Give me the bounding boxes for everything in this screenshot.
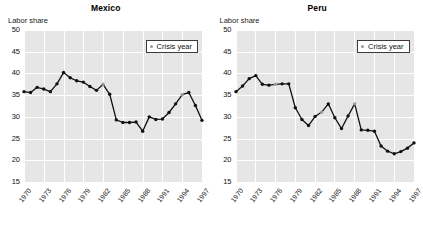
- crisis-year-marker: [320, 110, 323, 113]
- data-point-marker: [95, 89, 98, 92]
- data-point-marker: [194, 104, 197, 107]
- data-point-marker: [313, 115, 316, 118]
- data-point-marker: [161, 117, 164, 120]
- x-axis-tick-label: 1994: [176, 187, 191, 204]
- y-axis-tick-label: 45: [223, 48, 231, 56]
- y-axis-tick-label: 40: [12, 70, 20, 78]
- data-point-marker: [267, 83, 270, 86]
- data-point-marker: [68, 76, 71, 79]
- crisis-year-marker: [181, 93, 184, 96]
- data-point-marker: [412, 141, 415, 144]
- y-axis-tick-label: 45: [12, 48, 20, 56]
- data-point-marker: [62, 71, 65, 74]
- figure-container: Mexico Labor share 152025303540455019701…: [0, 0, 423, 226]
- data-point-marker: [82, 80, 85, 83]
- x-axis-tick-label: 1976: [268, 187, 283, 204]
- y-axis-tick-label: 50: [12, 26, 20, 34]
- series-line: [236, 76, 414, 154]
- data-point-marker: [366, 129, 369, 132]
- y-axis-tick-label: 50: [223, 26, 231, 34]
- data-point-marker: [29, 91, 32, 94]
- x-axis-tick-label: 1985: [328, 187, 343, 204]
- data-point-marker: [22, 90, 25, 93]
- data-point-marker: [293, 106, 296, 109]
- data-point-marker: [35, 86, 38, 89]
- y-axis-tick-label: 30: [223, 113, 231, 121]
- data-point-marker: [333, 116, 336, 119]
- data-point-marker: [385, 149, 388, 152]
- legend-mexico: Crisis year: [146, 40, 198, 53]
- gridline-vertical: [202, 30, 203, 182]
- x-axis-tick-label: 1988: [348, 187, 363, 204]
- data-point-marker: [280, 82, 283, 85]
- data-point-marker: [49, 90, 52, 93]
- x-axis-tick-label: 1997: [407, 187, 422, 204]
- y-axis-tick-label: 15: [12, 178, 20, 186]
- data-point-marker: [42, 87, 45, 90]
- legend-label-mexico: Crisis year: [157, 42, 192, 51]
- data-point-marker: [287, 82, 290, 85]
- data-point-marker: [247, 77, 250, 80]
- plot-area-mexico: 1520253035404550197019731976197919821985…: [24, 30, 202, 182]
- data-point-marker: [121, 121, 124, 124]
- y-axis-tick-label: 20: [12, 157, 20, 165]
- x-axis-tick-label: 1979: [77, 187, 92, 204]
- data-point-marker: [167, 111, 170, 114]
- x-axis-tick-label: 1973: [249, 187, 264, 204]
- legend-label-peru: Crisis year: [368, 42, 403, 51]
- data-point-marker: [346, 114, 349, 117]
- x-axis-tick-label: 1988: [136, 187, 151, 204]
- y-axis-tick-label: 30: [12, 113, 20, 121]
- x-axis-tick-label: 1970: [17, 187, 32, 204]
- data-point-marker: [372, 129, 375, 132]
- data-point-marker: [254, 74, 257, 77]
- data-point-marker: [326, 102, 329, 105]
- x-axis-tick-label: 1982: [97, 187, 112, 204]
- x-axis-tick-label: 1970: [229, 187, 244, 204]
- y-axis-tick-label: 40: [223, 70, 231, 78]
- data-point-marker: [200, 119, 203, 122]
- chart-title-mexico: Mexico: [0, 3, 212, 13]
- y-axis-tick-label: 15: [223, 178, 231, 186]
- x-axis-tick-label: 1991: [156, 187, 171, 204]
- series-line: [24, 73, 202, 132]
- data-point-marker: [306, 124, 309, 127]
- data-point-marker: [141, 129, 144, 132]
- y-axis-tick-label: 35: [12, 91, 20, 99]
- data-point-marker: [88, 85, 91, 88]
- data-point-marker: [108, 93, 111, 96]
- plot-area-peru: 1520253035404550197019731976197919821985…: [236, 30, 414, 182]
- crisis-year-dot-icon: [361, 45, 364, 48]
- data-point-marker: [405, 146, 408, 149]
- gridline-horizontal: [24, 182, 202, 183]
- data-point-marker: [339, 127, 342, 130]
- data-point-marker: [240, 84, 243, 87]
- data-point-marker: [379, 144, 382, 147]
- x-axis-tick-label: 1997: [195, 187, 210, 204]
- crisis-year-marker: [273, 83, 276, 86]
- chart-title-peru: Peru: [212, 3, 423, 13]
- chart-panel-peru: Peru Labor share 15202530354045501970197…: [212, 0, 423, 226]
- data-point-marker: [392, 152, 395, 155]
- y-axis-tick-label: 25: [12, 135, 20, 143]
- y-axis-caption-peru: Labor share: [220, 16, 260, 25]
- y-axis-caption-mexico: Labor share: [8, 16, 48, 25]
- data-point-marker: [75, 79, 78, 82]
- data-point-marker: [128, 121, 131, 124]
- crisis-year-dot-icon: [150, 45, 153, 48]
- x-axis-tick-label: 1979: [288, 187, 303, 204]
- gridline-vertical: [414, 30, 415, 182]
- data-point-marker: [148, 115, 151, 118]
- data-point-marker: [187, 91, 190, 94]
- data-point-marker: [134, 120, 137, 123]
- data-point-marker: [174, 102, 177, 105]
- data-point-marker: [359, 128, 362, 131]
- crisis-year-marker: [101, 83, 104, 86]
- data-point-marker: [234, 90, 237, 93]
- data-point-marker: [55, 82, 58, 85]
- x-axis-tick-label: 1976: [57, 187, 72, 204]
- y-axis-tick-label: 20: [223, 157, 231, 165]
- data-point-marker: [115, 118, 118, 121]
- legend-peru: Crisis year: [357, 40, 409, 53]
- x-axis-tick-label: 1994: [387, 187, 402, 204]
